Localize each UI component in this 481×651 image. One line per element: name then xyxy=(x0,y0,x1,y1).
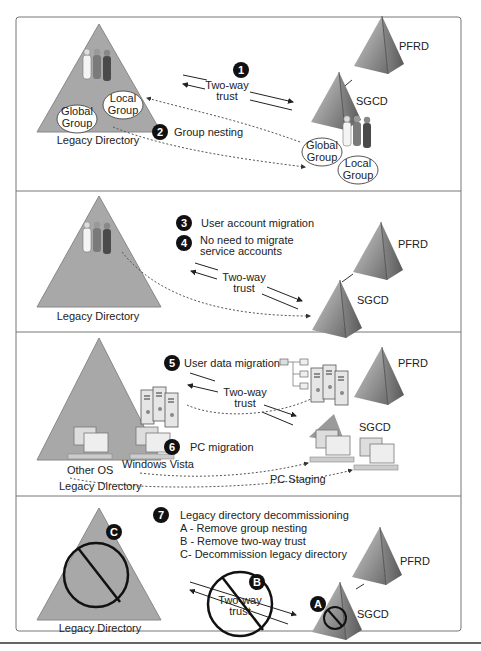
svg-text:User account migration: User account migration xyxy=(201,217,314,229)
svg-text:Legacy directory decommissioni: Legacy directory decommissioning xyxy=(180,509,349,521)
svg-text:2: 2 xyxy=(157,126,163,138)
svg-text:SGCD: SGCD xyxy=(359,421,391,433)
svg-text:B: B xyxy=(253,576,261,588)
group-nesting-label: Group nesting xyxy=(174,126,243,138)
svg-text:4: 4 xyxy=(181,237,188,249)
svg-text:Other OS: Other OS xyxy=(67,464,113,476)
svg-text:1: 1 xyxy=(238,64,244,76)
users-icon xyxy=(83,222,111,254)
svg-text:Group: Group xyxy=(343,169,374,181)
svg-text:Legacy Directory: Legacy Directory xyxy=(57,310,140,322)
svg-text:Group: Group xyxy=(108,104,139,116)
svg-text:Local: Local xyxy=(345,157,371,169)
legacy-servers-icon xyxy=(141,387,178,427)
svg-text:5: 5 xyxy=(169,357,175,369)
svg-text:trust: trust xyxy=(234,397,255,409)
svg-text:PFRD: PFRD xyxy=(398,238,428,250)
svg-text:C: C xyxy=(110,526,118,538)
svg-text:Windows Vista: Windows Vista xyxy=(122,458,195,470)
svg-text:C- Decommission legacy directo: C- Decommission legacy directory xyxy=(180,548,347,560)
svg-text:PFRD: PFRD xyxy=(399,40,429,52)
svg-text:PFRD: PFRD xyxy=(400,555,430,567)
svg-text:Local: Local xyxy=(110,92,136,104)
users-icon xyxy=(83,49,111,81)
svg-text:7: 7 xyxy=(158,509,164,521)
svg-text:A: A xyxy=(314,598,322,610)
svg-text:trust: trust xyxy=(216,90,237,102)
svg-text:Legacy Directory: Legacy Directory xyxy=(59,622,142,634)
svg-text:service accounts: service accounts xyxy=(200,245,282,257)
svg-text:Global: Global xyxy=(306,139,338,151)
svg-text:SGCD: SGCD xyxy=(356,95,388,107)
svg-text:trust: trust xyxy=(233,282,254,294)
svg-text:Global: Global xyxy=(61,105,93,117)
migration-diagram: Global Group Local Group Legacy Director… xyxy=(0,0,481,651)
svg-text:3: 3 xyxy=(181,217,187,229)
svg-text:Legacy Directory: Legacy Directory xyxy=(59,480,142,492)
svg-text:Group: Group xyxy=(307,151,338,163)
svg-text:PC migration: PC migration xyxy=(190,441,254,453)
svg-text:PC Staging: PC Staging xyxy=(270,473,326,485)
legacy-directory-label: Legacy Directory xyxy=(57,134,140,146)
svg-text:B - Remove two-way trust: B - Remove two-way trust xyxy=(180,535,306,547)
users-icon xyxy=(343,116,371,148)
svg-text:PFRD: PFRD xyxy=(398,357,428,369)
svg-text:SGCD: SGCD xyxy=(357,608,389,620)
target-servers-icon xyxy=(311,365,348,405)
svg-text:Group: Group xyxy=(62,117,93,129)
svg-text:6: 6 xyxy=(169,441,175,453)
svg-text:User data migration: User data migration xyxy=(184,357,280,369)
svg-text:A - Remove group nesting: A - Remove group nesting xyxy=(180,522,307,534)
svg-text:SGCD: SGCD xyxy=(357,294,389,306)
